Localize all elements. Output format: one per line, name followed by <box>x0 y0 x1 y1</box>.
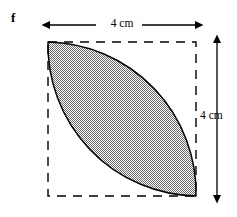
geometry-figure: f 4 cm 4 cm <box>0 0 237 217</box>
lens-region <box>48 42 196 196</box>
top-dimension-label: 4 cm <box>0 18 237 30</box>
right-dimension-label: 4 cm <box>200 110 223 122</box>
shaded-lens <box>48 42 196 196</box>
